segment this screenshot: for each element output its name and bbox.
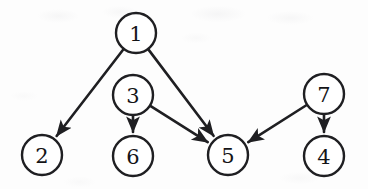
node-label-1: 1 — [129, 22, 142, 46]
node-label-6: 6 — [126, 145, 139, 169]
graph-figure: 1 to 21 to 53 to 63 to 57 to 57 to 4 123… — [0, 0, 368, 189]
graph-canvas: 1 to 21 to 53 to 63 to 57 to 57 to 4 123… — [0, 0, 368, 189]
edge-layer: 1 to 21 to 53 to 63 to 57 to 57 to 4 — [57, 49, 324, 142]
graph-node-7[interactable]: 7 — [304, 74, 344, 114]
graph-node-6[interactable]: 6 — [113, 136, 153, 176]
node-label-5: 5 — [221, 144, 234, 168]
graph-node-3[interactable]: 3 — [113, 75, 153, 115]
graph-node-4[interactable]: 4 — [304, 136, 344, 176]
graph-edge-7-to-5: 7 to 5 — [248, 105, 306, 142]
node-label-4: 4 — [317, 145, 330, 169]
graph-node-5[interactable]: 5 — [208, 135, 248, 175]
graph-node-2[interactable]: 2 — [22, 135, 62, 175]
node-label-7: 7 — [317, 83, 330, 107]
node-label-2: 2 — [35, 144, 48, 168]
graph-node-1[interactable]: 1 — [116, 13, 156, 53]
graph-edge-1-to-5: 1 to 5 — [148, 49, 213, 135]
graph-edge-3-to-5: 3 to 5 — [150, 106, 207, 142]
node-label-3: 3 — [126, 84, 139, 108]
